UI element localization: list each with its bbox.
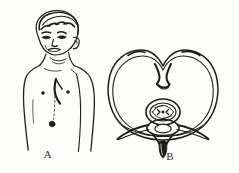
clavicle-line: [44, 69, 61, 72]
midline-dashed-line: [54, 96, 55, 120]
eye-left: [42, 36, 50, 39]
torso-left-contour: [24, 66, 40, 151]
nipple-left: [41, 91, 45, 95]
eyebrow-left: [42, 32, 51, 33]
panel-label-a: A: [38, 148, 58, 160]
lumen-marking-right: [166, 110, 169, 115]
isthmus-right-shading: [167, 64, 172, 84]
panel-b-thyroid-cross-section: [100, 0, 239, 173]
lumen-lower-fold: [164, 116, 173, 119]
neck-left-contour: [40, 54, 47, 66]
neck-right-contour: [69, 53, 75, 66]
lower-lip: [50, 51, 60, 52]
goiter-lower-fold: [53, 62, 65, 64]
nipple-right: [66, 90, 70, 94]
eye-right: [58, 36, 66, 39]
goiter-swelling-contour: [50, 58, 66, 61]
arm-inner-contour: [77, 74, 81, 152]
lumen-center-dot: [162, 111, 165, 114]
vertebral-foramen: [155, 124, 171, 133]
figure-root: A B: [0, 0, 239, 173]
nose: [52, 40, 57, 47]
eyebrow-right: [58, 32, 67, 34]
isthmus-left-shading: [155, 64, 160, 84]
flank-line: [33, 100, 34, 123]
thyroid-cross-section-drawing: [100, 0, 239, 173]
navel: [49, 121, 55, 127]
panel-label-b: B: [160, 150, 180, 162]
armpit-line: [71, 70, 77, 75]
lumen-marking-left: [158, 110, 161, 115]
sternal-branch: [57, 80, 63, 89]
mouth: [49, 49, 61, 50]
hair-strand-4: [64, 23, 75, 27]
